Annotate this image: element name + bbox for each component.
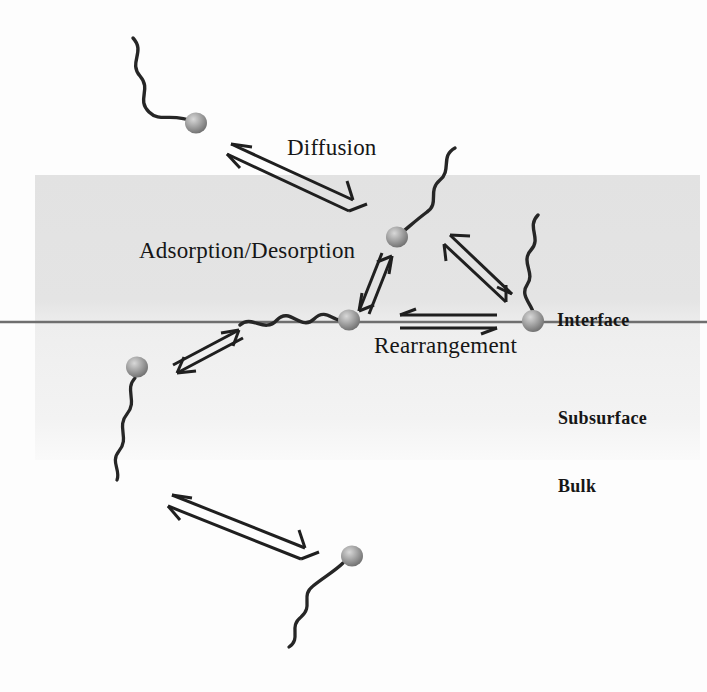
subsurface-shaded-band — [35, 323, 700, 460]
subsurface-label: Subsurface — [558, 409, 647, 427]
surfactant-head — [386, 227, 408, 248]
upper-shaded-band — [35, 175, 700, 322]
interface-label: Interface — [557, 311, 630, 329]
surfactant-head — [185, 113, 207, 134]
rearrangement-label: Rearrangement — [374, 334, 517, 357]
diagram-canvas — [0, 0, 707, 692]
surfactant-head — [126, 357, 148, 378]
adsorption-desorption-label: Adsorption/Desorption — [139, 239, 355, 262]
surfactant-head — [338, 310, 360, 331]
diffusion-label: Diffusion — [287, 136, 377, 159]
surfactant-head — [341, 546, 363, 567]
surfactant-adsorption-diagram: Diffusion Adsorption/Desorption Rearrang… — [0, 0, 707, 692]
bulk-label: Bulk — [558, 477, 596, 495]
surfactant-head — [522, 310, 544, 332]
